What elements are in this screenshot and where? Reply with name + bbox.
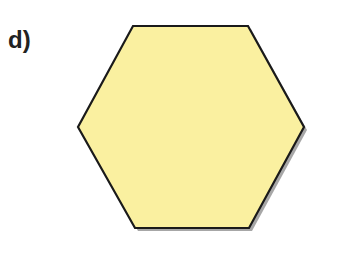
hexagon-figure <box>0 0 339 254</box>
figure-canvas: d) <box>0 0 339 254</box>
